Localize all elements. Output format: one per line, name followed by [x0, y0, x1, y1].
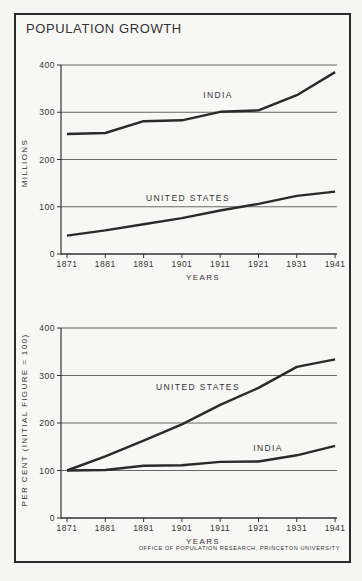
y-tick-label: 400	[39, 323, 55, 333]
x-tick-label: 1891	[133, 259, 154, 269]
x-tick-label: 1901	[171, 523, 192, 533]
x-axis-label: YEARS	[186, 273, 220, 282]
x-tick-label: 1941	[325, 523, 346, 533]
series-line-india	[67, 446, 335, 471]
y-tick-label: 200	[39, 418, 55, 428]
y-tick-label: 0	[50, 249, 55, 259]
series-line-india	[67, 72, 335, 134]
x-tick-label: 1871	[57, 259, 78, 269]
y-tick-label: 300	[39, 107, 55, 117]
y-tick-label: 200	[39, 155, 55, 165]
x-tick-label: 1891	[133, 523, 154, 533]
series-label: UNITED STATES	[146, 193, 230, 203]
y-axis-label: MILLIONS	[20, 139, 29, 188]
y-tick-label: 0	[50, 513, 55, 523]
series-label: INDIA	[203, 90, 233, 100]
x-tick-label: 1871	[57, 523, 78, 533]
x-tick-label: 1911	[210, 523, 230, 533]
y-tick-label: 400	[39, 60, 55, 70]
series-label: INDIA	[253, 443, 283, 453]
x-tick-label: 1921	[248, 259, 269, 269]
x-tick-label: 1901	[171, 259, 192, 269]
x-tick-label: 1921	[248, 523, 269, 533]
x-tick-label: 1881	[95, 259, 116, 269]
y-tick-label: 100	[39, 202, 55, 212]
x-tick-label: 1881	[95, 523, 116, 533]
y-axis-label: PER CENT (INITIAL FIGURE = 100)	[20, 334, 29, 507]
x-tick-label: 1931	[286, 523, 307, 533]
series-label: UNITED STATES	[156, 382, 240, 392]
series-line-united-states	[67, 359, 335, 470]
x-tick-label: 1911	[210, 259, 230, 269]
x-tick-label: 1931	[286, 259, 307, 269]
y-tick-label: 100	[39, 466, 55, 476]
credit-line: OFFICE OF POPULATION RESEARCH, PRINCETON…	[139, 545, 340, 551]
y-tick-label: 300	[39, 371, 55, 381]
x-tick-label: 1941	[325, 259, 346, 269]
charts-canvas: 0100200300400187118811891190119111921193…	[0, 0, 362, 581]
